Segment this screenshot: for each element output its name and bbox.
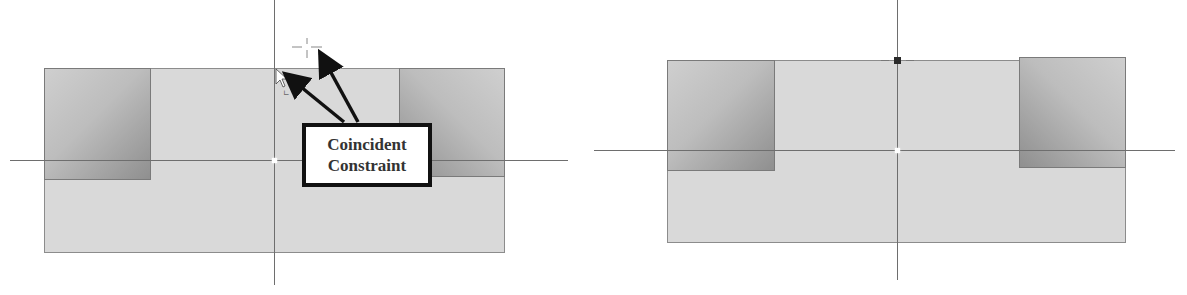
extrude-square-left[interactable] (667, 60, 775, 171)
extrude-square-right[interactable] (1019, 57, 1126, 168)
panel-after (0, 0, 1187, 295)
vertical-axis (897, 0, 898, 280)
constraint-dash-right (906, 60, 914, 61)
horizontal-axis (594, 150, 1175, 151)
coincident-marker-icon[interactable] (894, 57, 901, 64)
constraint-dash-left (881, 60, 889, 61)
origin-point-icon[interactable] (895, 148, 900, 153)
